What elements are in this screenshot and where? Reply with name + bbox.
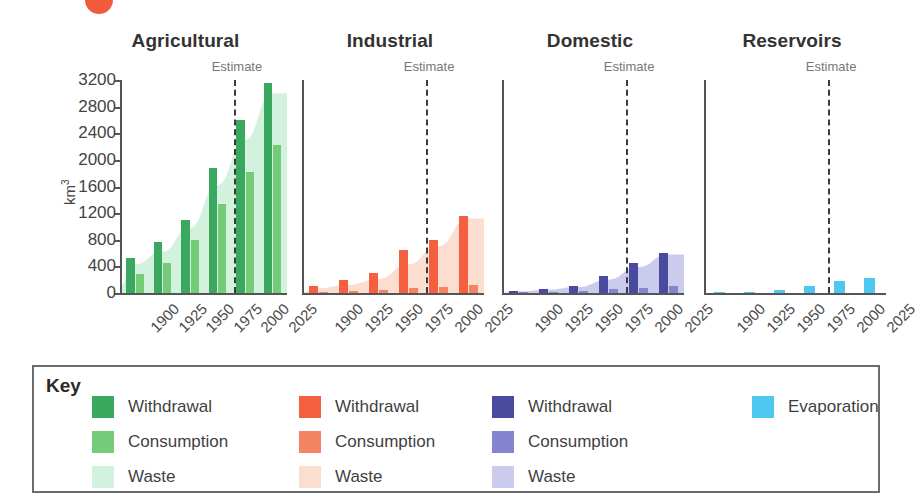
xtick-reservoirs-2000: 2000 [852, 300, 888, 336]
xtick-industrial-1975: 1975 [420, 300, 456, 336]
bar-reservoirs-evaporation-1950 [774, 290, 784, 293]
xtick-agricultural-1900: 1900 [147, 300, 183, 336]
domestic-key: WithdrawalConsumptionWaste [492, 389, 628, 494]
key-item-agricultural-key-waste: Waste [92, 459, 228, 494]
xtick-domestic-1950: 1950 [590, 300, 626, 336]
key-title: Key [46, 375, 81, 397]
waste-band-agricultural [122, 80, 287, 293]
bar-industrial-withdrawal-2025 [459, 216, 468, 293]
xtick-domestic-1975: 1975 [620, 300, 656, 336]
bar-agricultural-consumption-2025 [273, 145, 281, 293]
bar-agricultural-consumption-1950 [191, 240, 199, 293]
bar-reservoirs-evaporation-1925 [744, 292, 754, 294]
ytick-label-2800: 2800 [72, 97, 116, 117]
bar-agricultural-consumption-1975 [218, 204, 226, 293]
bar-domestic-consumption-2025 [669, 286, 678, 293]
bar-agricultural-consumption-1925 [163, 263, 171, 293]
key-item-industrial-key-waste: Waste [299, 459, 435, 494]
xtick-reservoirs-2025: 2025 [882, 300, 918, 336]
plot-area-domestic [502, 80, 684, 295]
bar-industrial-consumption-1950 [379, 290, 388, 293]
ytick-mark [115, 107, 121, 109]
key-swatch-waste [492, 466, 514, 488]
ytick-label-1600: 1600 [72, 177, 116, 197]
xtick-domestic-1900: 1900 [530, 300, 566, 336]
ytick-mark [115, 160, 121, 162]
key-label-waste: Waste [128, 467, 176, 487]
panel-title-industrial: Industrial [290, 30, 490, 52]
plot-area-industrial [302, 80, 484, 295]
ytick-label-800: 800 [72, 230, 116, 250]
ytick-label-2000: 2000 [72, 150, 116, 170]
xtick-agricultural-1975: 1975 [229, 300, 265, 336]
bar-agricultural-withdrawal-1925 [154, 242, 162, 293]
ytick-mark [115, 80, 121, 82]
reservoirs-key: Evaporation [752, 389, 879, 424]
key-swatch-consumption [492, 431, 514, 453]
bar-industrial-withdrawal-1900 [309, 286, 318, 293]
key-label-withdrawal: Withdrawal [128, 397, 212, 417]
ytick-mark [115, 213, 121, 215]
estimate-label-industrial: Estimate [404, 59, 455, 74]
orange-marker-dot [85, 0, 113, 14]
bar-industrial-consumption-2000 [439, 287, 448, 293]
bar-domestic-consumption-1950 [579, 291, 588, 293]
key-swatch-evaporation [752, 396, 774, 418]
xtick-domestic-2000: 2000 [650, 300, 686, 336]
bar-industrial-withdrawal-1925 [339, 280, 348, 293]
key-swatch-consumption [92, 431, 114, 453]
key-swatch-withdrawal [299, 396, 321, 418]
chart-panels: AgriculturalEstimate19001925195019752000… [0, 30, 915, 350]
key-item-industrial-key-withdrawal: Withdrawal [299, 389, 435, 424]
bar-agricultural-consumption-1900 [136, 274, 144, 293]
ytick-label-1200: 1200 [72, 203, 116, 223]
ytick-mark [115, 133, 121, 135]
bar-domestic-withdrawal-2000 [629, 263, 638, 293]
bar-agricultural-withdrawal-1975 [209, 168, 217, 293]
estimate-divider-line [426, 80, 428, 293]
bar-industrial-withdrawal-1950 [369, 273, 378, 293]
bar-domestic-consumption-1925 [549, 292, 558, 294]
ytick-label-400: 400 [72, 256, 116, 276]
xtick-reservoirs-1925: 1925 [762, 300, 798, 336]
panel-title-domestic: Domestic [490, 30, 690, 52]
key-item-agricultural-key-withdrawal: Withdrawal [92, 389, 228, 424]
xtick-reservoirs-1900: 1900 [732, 300, 768, 336]
bar-industrial-consumption-2025 [469, 285, 478, 293]
panel-reservoirs: ReservoirsEstimate1900192519501975200020… [692, 30, 892, 350]
bar-reservoirs-evaporation-1900 [714, 292, 724, 294]
bar-domestic-withdrawal-1900 [509, 291, 518, 293]
estimate-label-domestic: Estimate [604, 59, 655, 74]
key-swatch-consumption [299, 431, 321, 453]
key-swatch-withdrawal [92, 396, 114, 418]
bar-reservoirs-evaporation-2000 [834, 281, 844, 293]
bar-domestic-consumption-1975 [609, 289, 618, 293]
key-item-domestic-key-waste: Waste [492, 459, 628, 494]
bar-agricultural-consumption-2000 [246, 172, 254, 293]
bar-domestic-withdrawal-1950 [569, 286, 578, 293]
bar-reservoirs-evaporation-1975 [804, 286, 814, 293]
ytick-mark [115, 240, 121, 242]
plot-area-reservoirs [704, 80, 886, 295]
bar-agricultural-withdrawal-1950 [181, 220, 189, 293]
estimate-label-agricultural: Estimate [212, 59, 263, 74]
bar-industrial-consumption-1925 [349, 291, 358, 293]
key-label-consumption: Consumption [528, 432, 628, 452]
key-label-evaporation: Evaporation [788, 397, 879, 417]
waste-band-domestic [504, 80, 684, 293]
bar-industrial-withdrawal-1975 [399, 250, 408, 293]
estimate-label-reservoirs: Estimate [806, 59, 857, 74]
panel-industrial: IndustrialEstimate1900192519501975200020… [290, 30, 490, 350]
bar-industrial-consumption-1975 [409, 288, 418, 293]
key-swatch-waste [92, 466, 114, 488]
xtick-agricultural-1925: 1925 [174, 300, 210, 336]
industrial-key: WithdrawalConsumptionWaste [299, 389, 435, 494]
key-label-withdrawal: Withdrawal [335, 397, 419, 417]
ytick-mark [115, 266, 121, 268]
key-swatch-waste [299, 466, 321, 488]
key-item-agricultural-key-consumption: Consumption [92, 424, 228, 459]
key-swatch-withdrawal [492, 396, 514, 418]
estimate-divider-line [828, 80, 830, 293]
xtick-agricultural-1950: 1950 [202, 300, 238, 336]
panel-title-agricultural: Agricultural [78, 30, 293, 52]
